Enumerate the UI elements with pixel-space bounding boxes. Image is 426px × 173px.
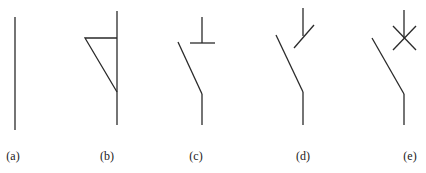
label-a: (a) bbox=[6, 149, 19, 164]
label-b: (b) bbox=[100, 149, 114, 164]
symbol-e-switch-cross-icon bbox=[372, 10, 416, 125]
symbol-c-switch-t-bar-icon bbox=[178, 17, 215, 125]
symbol-d-switch-slash-icon bbox=[276, 8, 314, 125]
label-c: (c) bbox=[189, 149, 202, 164]
symbol-b-triangle-flag-icon bbox=[85, 11, 117, 125]
label-d: (d) bbox=[296, 149, 310, 164]
label-e: (e) bbox=[403, 149, 416, 164]
switch-symbols-diagram bbox=[0, 0, 426, 173]
